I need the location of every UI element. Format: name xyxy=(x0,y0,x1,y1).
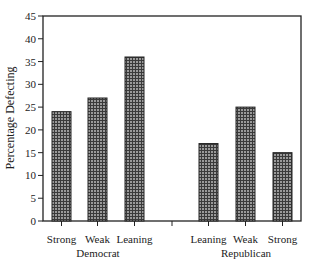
plot-frame xyxy=(43,16,301,221)
y-tick-label: 20 xyxy=(25,124,37,136)
bar xyxy=(52,112,71,221)
y-tick-label: 0 xyxy=(31,215,37,227)
bars xyxy=(52,57,292,221)
bar xyxy=(88,98,107,221)
bar xyxy=(273,153,292,221)
plot-border xyxy=(43,16,301,221)
bar-chart: 051015202530354045 StrongWeakLeaningLean… xyxy=(0,0,311,267)
y-tick-label: 35 xyxy=(25,56,37,68)
bar xyxy=(236,107,255,221)
bar xyxy=(199,144,218,221)
x-tick-label: Weak xyxy=(85,233,110,245)
y-tick-label: 25 xyxy=(25,101,37,113)
y-axis: 051015202530354045 xyxy=(25,10,43,227)
group-label-democrat: Democrat xyxy=(76,247,119,259)
y-axis-label: Percentage Defecting xyxy=(3,67,17,170)
y-tick-label: 10 xyxy=(25,169,37,181)
y-tick-label: 5 xyxy=(31,192,37,204)
x-tick-label: Weak xyxy=(233,233,258,245)
group-label-republican: Republican xyxy=(221,247,272,259)
y-tick-label: 30 xyxy=(25,78,37,90)
x-axis: StrongWeakLeaningLeaningWeakStrongDemocr… xyxy=(47,221,298,259)
x-tick-label: Strong xyxy=(47,233,77,245)
y-tick-label: 40 xyxy=(25,33,37,45)
y-tick-label: 15 xyxy=(25,147,37,159)
x-tick-label: Leaning xyxy=(116,233,153,245)
chart-canvas: 051015202530354045 StrongWeakLeaningLean… xyxy=(0,0,311,267)
bar xyxy=(125,57,144,221)
x-tick-label: Leaning xyxy=(190,233,227,245)
x-tick-label: Strong xyxy=(268,233,298,245)
y-tick-label: 45 xyxy=(25,10,37,22)
